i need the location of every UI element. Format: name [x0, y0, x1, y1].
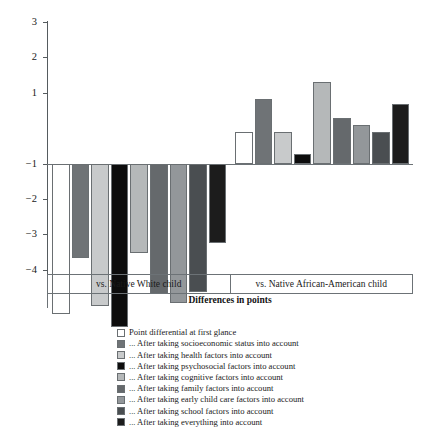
y-tick-label: −3: [15, 229, 37, 240]
y-tick-mark: [43, 22, 48, 23]
legend-label: ... After taking socioeconomic status in…: [129, 339, 299, 348]
y-tick-mark: [43, 270, 48, 271]
x-axis-title: Differences in points: [47, 295, 413, 305]
y-tick-label: 2: [15, 52, 37, 63]
y-tick-label: −4: [15, 265, 37, 276]
legend-swatch-icon: [117, 407, 125, 415]
bar: [294, 154, 312, 164]
y-tick-label: −2: [15, 194, 37, 205]
y-tick-label: −1: [15, 159, 37, 170]
legend-label: ... After taking psychosocial factors in…: [129, 362, 295, 371]
y-tick-mark: [43, 199, 48, 200]
legend-swatch-icon: [117, 329, 125, 337]
chart-legend: Point differential at first glance... Af…: [117, 327, 417, 428]
legend-swatch-icon: [117, 362, 125, 370]
legend-label: Point differential at first glance: [129, 328, 236, 337]
plot-area: 321−1−2−3−4: [0, 0, 427, 300]
legend-swatch-icon: [117, 373, 125, 381]
legend-item: Point differential at first glance: [117, 327, 417, 338]
bar: [130, 164, 148, 254]
legend-item: ... After taking socioeconomic status in…: [117, 338, 417, 349]
bar: [353, 125, 371, 163]
legend-label: ... After taking health factors into acc…: [129, 351, 272, 360]
group-label-box: vs. Native White child vs. Native Africa…: [47, 274, 413, 294]
bar: [372, 132, 390, 163]
legend-item: ... After taking early child care factor…: [117, 394, 417, 405]
y-tick-mark: [43, 93, 48, 94]
bar: [333, 118, 351, 163]
legend-label: ... After taking everything into account: [129, 418, 262, 427]
bar: [189, 164, 207, 293]
legend-item: ... After taking cognitive factors into …: [117, 372, 417, 383]
bar: [235, 132, 253, 163]
legend-swatch-icon: [117, 385, 125, 393]
legend-item: ... After taking family factors into acc…: [117, 383, 417, 394]
legend-label: ... After taking family factors into acc…: [129, 384, 273, 393]
bar: [72, 164, 90, 259]
bar: [209, 164, 227, 244]
legend-item: ... After taking everything into account: [117, 417, 417, 428]
y-tick-mark: [43, 57, 48, 58]
y-axis-line: [47, 21, 48, 290]
legend-item: ... After taking health factors into acc…: [117, 349, 417, 360]
legend-label: ... After taking school factors into acc…: [129, 407, 273, 416]
y-tick-mark: [43, 234, 48, 235]
legend-swatch-icon: [117, 351, 125, 359]
legend-item: ... After taking psychosocial factors in…: [117, 361, 417, 372]
y-tick-label: 1: [15, 88, 37, 99]
group-label-left: vs. Native White child: [48, 275, 230, 293]
legend-label: ... After taking early child care factor…: [129, 395, 304, 404]
group-label-right: vs. Native African-American child: [230, 275, 413, 293]
bar: [255, 99, 273, 163]
y-tick-label: 3: [15, 17, 37, 28]
chart-page: 321−1−2−3−4 vs. Native White child vs. N…: [0, 0, 427, 444]
legend-item: ... After taking school factors into acc…: [117, 405, 417, 416]
legend-swatch-icon: [117, 340, 125, 348]
legend-label: ... After taking cognitive factors into …: [129, 373, 283, 382]
bar: [392, 104, 410, 163]
legend-swatch-icon: [117, 396, 125, 404]
bar: [274, 132, 292, 163]
legend-swatch-icon: [117, 418, 125, 426]
bar: [313, 82, 331, 163]
